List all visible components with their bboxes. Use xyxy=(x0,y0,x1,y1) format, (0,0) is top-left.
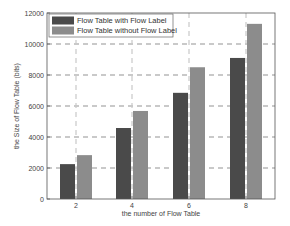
x-axis-label: the number of Flow Table xyxy=(122,210,201,217)
bar xyxy=(173,93,188,199)
y-tick-label: 0 xyxy=(40,196,44,203)
bar xyxy=(247,24,262,199)
y-axis-label: the Size of Flow Table (bits) xyxy=(13,63,21,149)
legend-swatch-without-label xyxy=(52,27,74,35)
y-tick-label: 2000 xyxy=(28,165,44,172)
bar xyxy=(190,67,205,199)
legend: Flow Table with Flow Label Flow Table wi… xyxy=(49,14,177,37)
x-tick-label: 4 xyxy=(130,202,134,209)
legend-label-with-label: Flow Table with Flow Label xyxy=(77,16,167,25)
bar-chart: 020004000600080001000012000 2468 the num… xyxy=(0,0,290,226)
legend-swatch-with-label xyxy=(52,17,74,25)
bar xyxy=(116,128,131,199)
y-tick-label: 8000 xyxy=(28,72,44,79)
y-tick-label: 10000 xyxy=(25,41,45,48)
bar xyxy=(60,164,75,199)
y-tick-label: 12000 xyxy=(25,10,45,17)
legend-label-without-label: Flow Table without Flow Label xyxy=(77,26,177,35)
x-tick-label: 2 xyxy=(74,202,78,209)
y-tick-label: 6000 xyxy=(28,103,44,110)
x-tick-label: 6 xyxy=(187,202,191,209)
y-axis-ticks: 020004000600080001000012000 xyxy=(25,10,50,203)
bar xyxy=(77,155,92,199)
bar xyxy=(133,111,148,199)
bars xyxy=(60,13,262,199)
x-tick-label: 8 xyxy=(244,202,248,209)
bar xyxy=(230,58,245,199)
x-axis-ticks: 2468 xyxy=(74,196,248,209)
y-tick-label: 4000 xyxy=(28,134,44,141)
